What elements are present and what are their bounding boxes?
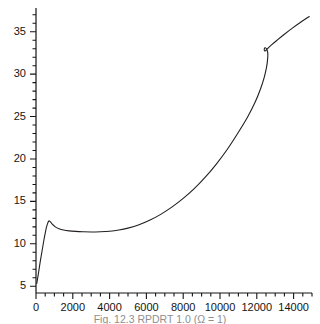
data-series-line — [37, 16, 310, 283]
y-tick-label: 20 — [0, 152, 26, 164]
y-tick-label: 35 — [0, 25, 26, 37]
y-tick-label: 5 — [0, 279, 26, 291]
y-tick-label: 15 — [0, 194, 26, 206]
line-chart — [0, 0, 320, 324]
y-tick-label: 10 — [0, 237, 26, 249]
x-axis-ticks — [36, 293, 312, 299]
figure-caption: Fig. 12.3 RPDRT 1.0 (Ω = 1) — [0, 313, 320, 324]
x-tick-label: 14000 — [264, 301, 320, 313]
y-axis-ticks — [30, 15, 36, 286]
axes — [30, 8, 312, 299]
figure-container: 5101520253035 02000400060008000100001200… — [0, 0, 320, 324]
y-tick-label: 25 — [0, 110, 26, 122]
y-tick-label: 30 — [0, 67, 26, 79]
